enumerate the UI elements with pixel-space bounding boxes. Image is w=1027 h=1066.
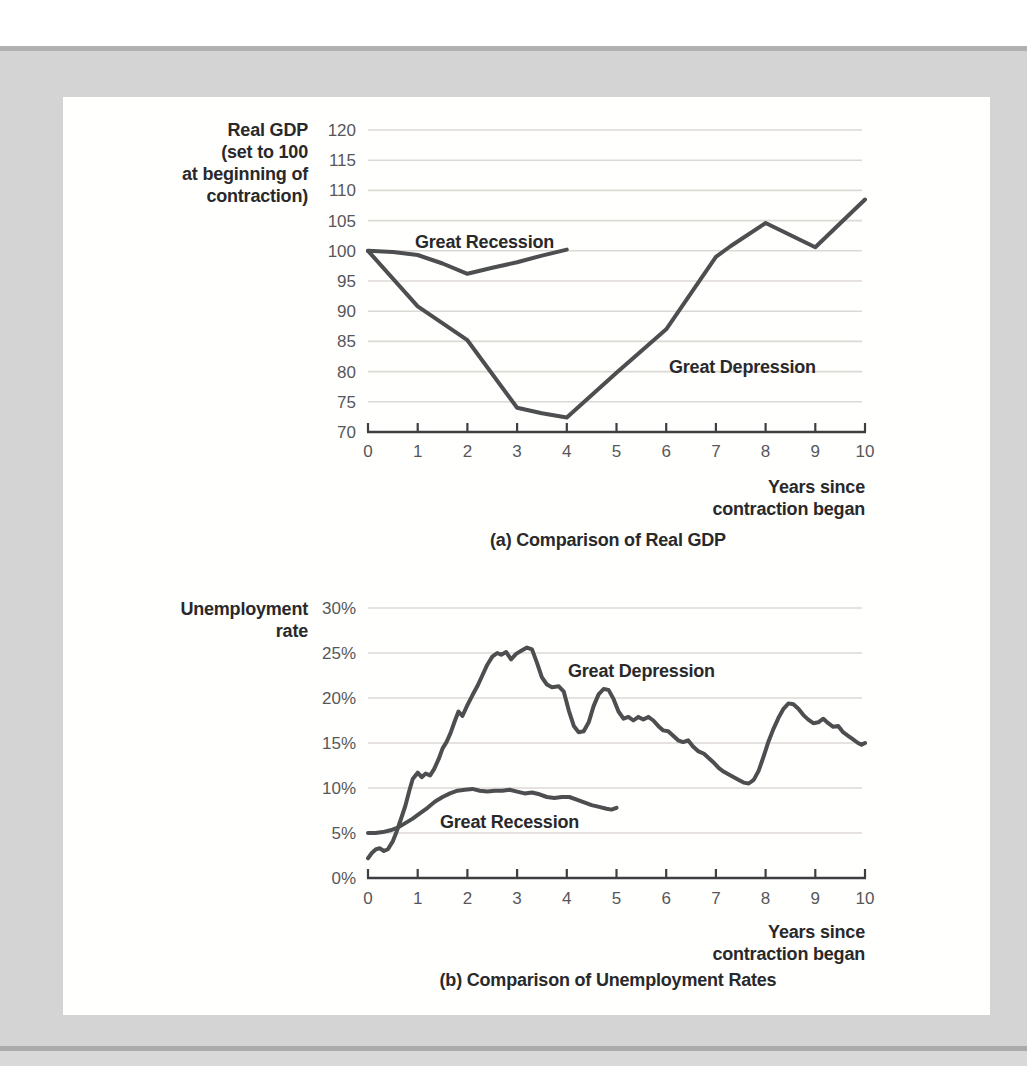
y-tick-label: 120 <box>328 121 356 140</box>
x-tick-labels: 012345678910 <box>363 889 874 908</box>
x-tick-label: 7 <box>711 889 720 908</box>
x-tick-label: 6 <box>661 442 670 461</box>
y-tick-label: 15% <box>322 734 356 753</box>
y-tick-label: 105 <box>328 212 356 231</box>
y-tick-label: 115 <box>329 151 356 170</box>
unemployment-y-axis-title: Unemployment rate <box>180 598 308 642</box>
gdp-x-axis-title: Years since contraction began <box>712 476 865 520</box>
x-tick-label: 6 <box>661 889 670 908</box>
gdp-great-depression-label: Great Depression <box>669 357 816 378</box>
x-tick-label: 1 <box>413 889 422 908</box>
y-tick-label: 95 <box>337 272 356 291</box>
y-tick-label: 75 <box>337 393 356 412</box>
x-tick-label: 10 <box>856 889 875 908</box>
x-tick-label: 3 <box>512 889 521 908</box>
y-tick-label: 25% <box>322 644 356 663</box>
y-tick-label: 80 <box>337 363 356 382</box>
x-axis <box>367 423 866 432</box>
y-tick-label: 10% <box>322 779 356 798</box>
y-tick-label: 20% <box>322 689 356 708</box>
gdp-great-recession-label: Great Recession <box>415 232 554 253</box>
x-tick-label: 5 <box>612 889 621 908</box>
unemployment-y-axis-title-line1: Unemployment <box>180 598 308 620</box>
page-gray-band-lower <box>0 1051 1027 1066</box>
unemployment-great-depression-label: Great Depression <box>568 661 715 682</box>
unemployment-x-axis-title-line1: Years since <box>712 921 865 943</box>
x-tick-label: 8 <box>761 442 770 461</box>
x-tick-labels: 012345678910 <box>363 442 874 461</box>
x-tick-label: 3 <box>512 442 521 461</box>
y-tick-label: 0% <box>331 869 356 888</box>
gdp-y-axis-title-line1: Real GDP <box>182 119 308 141</box>
x-tick-label: 5 <box>612 442 621 461</box>
gdp-x-axis-title-line2: contraction began <box>712 498 865 520</box>
unemployment-great-recession-label: Great Recession <box>440 812 579 833</box>
x-tick-label: 4 <box>562 442 571 461</box>
y-tick-labels: 0%5%10%15%20%25%30% <box>322 599 356 888</box>
y-tick-label: 5% <box>331 824 356 843</box>
x-tick-label: 4 <box>562 889 571 908</box>
unemployment-x-axis-title: Years since contraction began <box>712 921 865 965</box>
unemployment-x-axis-title-line2: contraction began <box>712 943 865 965</box>
x-tick-label: 7 <box>711 442 720 461</box>
y-tick-label: 85 <box>337 332 356 351</box>
x-tick-label: 2 <box>463 889 472 908</box>
x-tick-label: 1 <box>413 442 422 461</box>
x-tick-label: 0 <box>363 889 372 908</box>
figure-panel: 0123456789107075808590951001051101151200… <box>63 97 990 1015</box>
gdp-y-axis-title: Real GDP (set to 100 at beginning of con… <box>182 119 308 207</box>
y-tick-label: 90 <box>337 302 356 321</box>
unemployment-y-axis-title-line2: rate <box>180 620 308 642</box>
gdp-y-axis-title-line4: contraction) <box>182 185 308 207</box>
x-tick-label: 9 <box>811 442 820 461</box>
chart-a: 012345678910707580859095100105110115120 <box>328 121 875 461</box>
gdp-x-axis-title-line1: Years since <box>712 476 865 498</box>
x-tick-label: 8 <box>761 889 770 908</box>
x-tick-label: 10 <box>856 442 875 461</box>
x-tick-label: 9 <box>811 889 820 908</box>
gdp-y-axis-title-line2: (set to 100 <box>182 141 308 163</box>
series-line-great-recession <box>368 250 567 274</box>
x-tick-label: 0 <box>363 442 372 461</box>
y-tick-label: 30% <box>322 599 356 618</box>
y-tick-label: 70 <box>337 423 356 442</box>
unemployment-chart-caption: (b) Comparison of Unemployment Rates <box>440 970 777 991</box>
chart-b: 0123456789100%5%10%15%20%25%30% <box>322 599 874 908</box>
x-tick-label: 2 <box>463 442 472 461</box>
gdp-y-axis-title-line3: at beginning of <box>182 163 308 185</box>
y-tick-label: 100 <box>328 242 356 261</box>
x-axis <box>367 869 866 878</box>
y-tick-labels: 707580859095100105110115120 <box>328 121 356 442</box>
gdp-chart-caption: (a) Comparison of Real GDP <box>490 530 726 551</box>
y-tick-label: 110 <box>329 181 356 200</box>
